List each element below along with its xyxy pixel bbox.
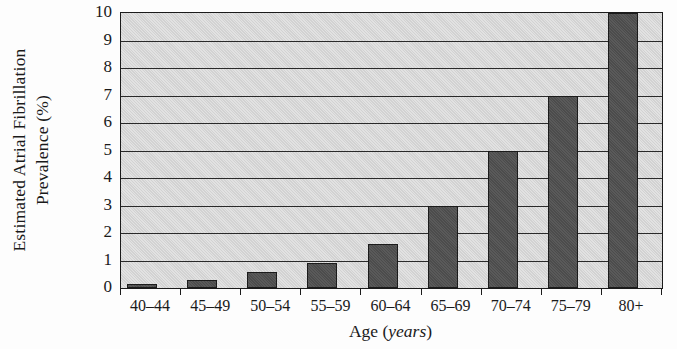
bar — [247, 272, 277, 289]
y-axis-title: Estimated Atrial Fibrillation Prevalence… — [0, 0, 62, 300]
bar — [608, 13, 638, 288]
bar-chart-figure: Estimated Atrial Fibrillation Prevalence… — [0, 0, 677, 349]
x-axis-title-close: ) — [426, 321, 432, 341]
x-axis-title-space: ( — [378, 321, 388, 341]
x-axis-tick — [240, 288, 241, 295]
x-axis-ticks — [120, 288, 661, 296]
y-axis-tick-label: 0 — [78, 278, 112, 295]
x-axis-tick — [180, 288, 181, 295]
x-axis-tick-label: 70–74 — [481, 296, 541, 316]
y-axis-tick-label: 8 — [78, 58, 112, 75]
bar — [428, 206, 458, 289]
x-axis-tick — [300, 288, 301, 295]
x-axis-tick-label: 65–69 — [421, 296, 481, 316]
x-axis-tick-label: 80+ — [601, 296, 661, 316]
bar-series — [121, 13, 662, 288]
y-axis-tick-label: 9 — [78, 31, 112, 48]
x-axis-tick — [360, 288, 361, 295]
x-axis-tick-label: 50–54 — [240, 296, 300, 316]
y-axis-tick-label: 3 — [78, 196, 112, 213]
y-axis-title-text: Estimated Atrial Fibrillation Prevalence… — [8, 48, 54, 251]
y-axis-tick-labels: 012345678910 — [78, 0, 112, 300]
y-axis-tick-label: 2 — [78, 223, 112, 240]
x-axis-tick — [481, 288, 482, 295]
x-axis-tick-label: 40–44 — [120, 296, 180, 316]
x-axis-tick-label: 75–79 — [541, 296, 601, 316]
y-axis-tick-label: 4 — [78, 168, 112, 185]
x-axis-tick-label: 55–59 — [300, 296, 360, 316]
x-axis-tick-labels: 40–4445–4950–5455–5960–6465–6970–7475–79… — [120, 296, 661, 318]
y-axis-tick-label: 6 — [78, 113, 112, 130]
x-axis-tick — [601, 288, 602, 295]
y-axis-tick-label: 1 — [78, 251, 112, 268]
y-axis-title-line-1: Estimated Atrial Fibrillation — [8, 48, 31, 251]
x-axis-title-italic: years — [388, 321, 426, 341]
x-axis-tick — [661, 288, 662, 295]
y-axis-tick-label: 5 — [78, 141, 112, 158]
x-axis-title-plain: Age — [349, 321, 378, 341]
bar — [488, 151, 518, 289]
x-axis-tick — [120, 288, 121, 295]
x-axis-tick-label: 45–49 — [180, 296, 240, 316]
plot-area — [120, 12, 663, 289]
bar — [548, 96, 578, 289]
bar — [187, 280, 217, 288]
bar — [307, 263, 337, 288]
x-axis-tick-label: 60–64 — [360, 296, 420, 316]
y-axis-tick-label: 7 — [78, 86, 112, 103]
x-axis-title: Age (years) — [120, 320, 661, 342]
y-axis-title-line-2: Prevalence (%) — [31, 48, 54, 251]
x-axis-tick — [421, 288, 422, 295]
x-axis-tick — [541, 288, 542, 295]
y-axis-tick-label: 10 — [78, 3, 112, 20]
bar — [368, 244, 398, 288]
